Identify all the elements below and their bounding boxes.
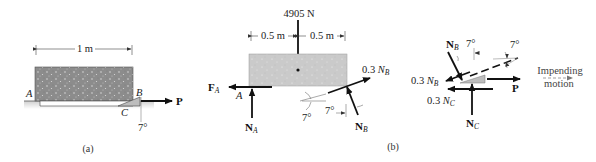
point-b-label: B xyxy=(136,87,143,98)
caption-b: (b) xyxy=(387,141,399,153)
point-a-label: A xyxy=(235,90,243,101)
force-nc-label: NC xyxy=(466,117,480,131)
incline-line xyxy=(470,58,518,76)
figure-b-wedge-fbd: NB 7° 7° 0.3 NB 0.3 NC P NC Impending mo… xyxy=(411,38,583,131)
angle-1-label: 7° xyxy=(466,38,475,49)
weight-label: 4905 N xyxy=(283,8,315,19)
impending-motion-label: Impending xyxy=(537,65,583,76)
force-na-label: NA xyxy=(245,121,258,135)
figure-b-block-fbd: 4905 N 0.5 m 0.5 m FA A NA 0.3 NB 7° xyxy=(208,8,390,135)
figure-a: 1 m 7° P A B C (a) xyxy=(24,43,183,155)
angle-left-label: 7° xyxy=(302,112,311,123)
friction-b-label: 0.3 NB xyxy=(411,75,439,88)
force-fa-label: FA xyxy=(208,81,220,95)
force-nb-arrow xyxy=(347,87,358,115)
angle-label: 7° xyxy=(138,122,147,133)
force-p-label: P xyxy=(176,95,183,107)
caption-a: (a) xyxy=(82,143,93,155)
force-p-label: P xyxy=(512,82,519,94)
angle-right-label: 7° xyxy=(325,105,334,116)
friction-c-label: 0.3 NC xyxy=(427,95,456,108)
motion-label: motion xyxy=(544,78,575,89)
point-c-label: C xyxy=(121,107,129,118)
dim-left-label: 0.5 m xyxy=(261,30,285,41)
diagram-canvas: 1 m 7° P A B C (a) 4905 N 0.5 m xyxy=(0,0,596,162)
force-nb-label: NB xyxy=(355,120,368,134)
friction-b-label: 0.3 NB xyxy=(362,64,390,77)
dim-right-label: 0.5 m xyxy=(310,30,334,41)
block xyxy=(35,67,133,101)
center-of-mass xyxy=(296,68,299,71)
force-nb-label: NB xyxy=(446,38,459,52)
angle-construction-line xyxy=(300,94,326,101)
wedge xyxy=(460,75,485,83)
angle-2-label: 7° xyxy=(510,39,519,50)
angle-arc xyxy=(305,92,311,99)
dimension-label: 1 m xyxy=(77,43,93,54)
point-a-label: A xyxy=(25,88,33,99)
